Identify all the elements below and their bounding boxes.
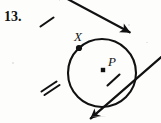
scan-speck: [92, 116, 106, 117]
crossing-line: [52, 0, 131, 32]
geometry-figure: [0, 0, 161, 123]
scan-speck: [146, 42, 148, 43]
scan-speck: [128, 24, 130, 26]
point-label-x: X: [74, 30, 82, 43]
center-point-P: [101, 68, 105, 72]
tick-single-upper-left: [41, 18, 54, 27]
point-label-p: P: [108, 55, 116, 68]
tick-double-lower-left-a: [42, 82, 57, 92]
tick-double-lower-left-b: [45, 85, 60, 95]
intersection-point-X: [76, 45, 82, 51]
figure-page: 13. X P: [0, 0, 161, 123]
scan-speck: [12, 62, 14, 64]
tick-single-right-of-P: [108, 75, 120, 86]
